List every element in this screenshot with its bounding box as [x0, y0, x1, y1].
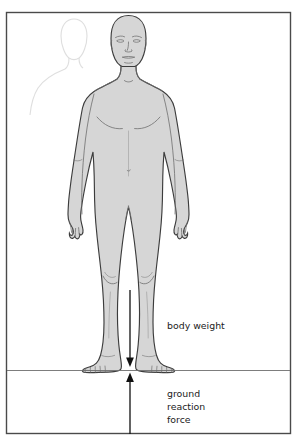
force-diagram-canvas: body weight ground reaction force — [0, 0, 297, 442]
ground-reaction-force-label-line-2: reaction — [167, 401, 205, 412]
body-weight-label: body weight — [167, 320, 225, 331]
ground-reaction-force-label-line-1: ground — [167, 388, 200, 399]
force-diagram-figure: body weight ground reaction force — [0, 0, 297, 442]
ground-reaction-force-label-line-3: force — [167, 414, 191, 425]
